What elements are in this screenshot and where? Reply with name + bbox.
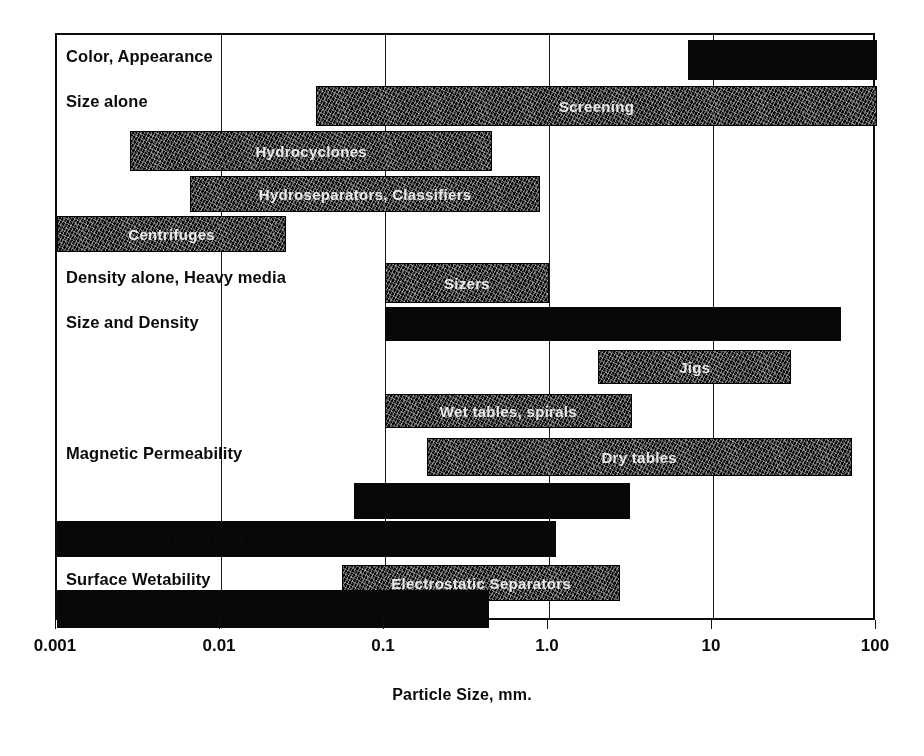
x-axis-tick [711, 620, 712, 629]
bar: Screening [316, 86, 877, 126]
bar-label: Electrostatic Separators [391, 575, 571, 592]
bar [385, 307, 841, 341]
bar: Hydrocyclones [130, 131, 492, 171]
bar-label: Wet tables, spirals [440, 403, 577, 420]
x-axis-tick-label: 100 [861, 636, 889, 656]
bar-label: Jigs [679, 359, 710, 376]
category-label: Surface Wetability [66, 570, 211, 589]
bar [57, 590, 489, 628]
bar-label: Hydrocyclones [255, 143, 366, 160]
bar-label: Centrifuges [128, 226, 215, 243]
x-axis-tick [219, 620, 220, 629]
x-axis-tick-label: 1.0 [535, 636, 559, 656]
bar: Wet tables, spirals [385, 394, 632, 428]
bar-label: Hydroseparators, Classifiers [259, 186, 472, 203]
x-axis-title: Particle Size, mm. [0, 686, 924, 704]
bar: Hydroseparators, Classifiers [190, 176, 540, 212]
x-axis-tick [383, 620, 384, 629]
x-axis-tick [547, 620, 548, 629]
x-axis-tick-label: 0.1 [371, 636, 395, 656]
category-label: Density alone, Heavy media [66, 268, 286, 287]
chart-root: ScreeningHydrocyclonesHydroseparators, C… [0, 0, 924, 756]
category-label: Size and Density [66, 313, 199, 332]
bar: Centrifuges [57, 216, 286, 252]
category-label: Size alone [66, 92, 148, 111]
x-axis-tick-label: 0.001 [34, 636, 77, 656]
bar-label: Dry tables [601, 449, 677, 466]
category-label: Color, Appearance [66, 47, 213, 66]
bar: Jigs [598, 350, 791, 384]
bar: Dry tables [427, 438, 852, 476]
bar [688, 40, 877, 80]
x-axis-tick [55, 620, 56, 629]
x-axis-tick [875, 620, 876, 629]
bar: Sizers [385, 263, 549, 303]
bar-label: Screening [559, 98, 634, 115]
x-axis-tick-label: 10 [702, 636, 721, 656]
x-axis-tick-label: 0.01 [202, 636, 235, 656]
category-label: Electrical Conductivity [66, 527, 246, 546]
category-label: Magnetic Permeability [66, 444, 242, 463]
bar [354, 483, 629, 519]
bar-label: Sizers [444, 275, 490, 292]
